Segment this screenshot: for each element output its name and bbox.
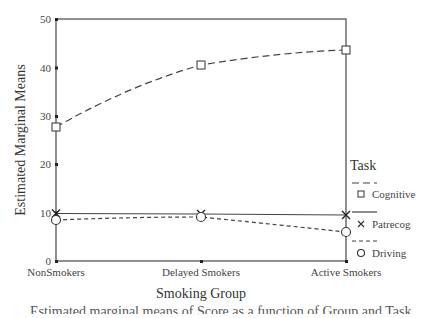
x-tick-delayed-smokers: Delayed Smokers [162, 266, 240, 278]
x-tick-nonsmokers: NonSmokers [27, 266, 84, 278]
legend-x-icon [358, 221, 364, 227]
legend-circle-icon [358, 250, 365, 257]
square-marker-icon [197, 61, 205, 69]
legend-square-icon [358, 191, 364, 197]
circle-marker-icon [52, 216, 61, 225]
x-axis-title: Smoking Group [156, 286, 246, 301]
x-tick-active-smokers: Active Smokers [311, 266, 382, 278]
square-marker-icon [342, 46, 350, 54]
figure-caption: Estimated marginal means of Score as a f… [30, 304, 425, 318]
legend-label-patrecog: Patrecog [372, 218, 411, 230]
circle-marker-icon [197, 213, 206, 222]
plot-frame [56, 19, 346, 261]
y-tick-10: 10 [40, 207, 52, 219]
y-tick-20: 20 [40, 158, 52, 170]
y-tick-40: 40 [40, 62, 52, 74]
y-tick-30: 30 [40, 110, 52, 122]
circle-marker-icon [342, 228, 351, 237]
legend-title: Task [350, 158, 376, 173]
y-tick-50: 50 [40, 13, 52, 25]
legend-label-cognitive: Cognitive [372, 188, 416, 200]
series-cognitive [52, 46, 350, 131]
series-driving [52, 213, 351, 237]
legend: Task Cognitive Patrecog Driving [350, 158, 416, 259]
y-axis: 50 40 30 20 10 0 [40, 13, 58, 267]
legend-label-driving: Driving [372, 247, 407, 259]
y-axis-title: Estimated Marginal Means [13, 64, 28, 215]
x-axis: NonSmokers Delayed Smokers Active Smoker… [27, 260, 381, 278]
square-marker-icon [52, 123, 60, 131]
